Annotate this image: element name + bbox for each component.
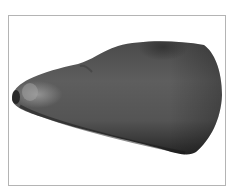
nose-highlight [22, 83, 38, 101]
nose-tip-shadow [12, 90, 20, 104]
rendered-shape [0, 0, 236, 196]
